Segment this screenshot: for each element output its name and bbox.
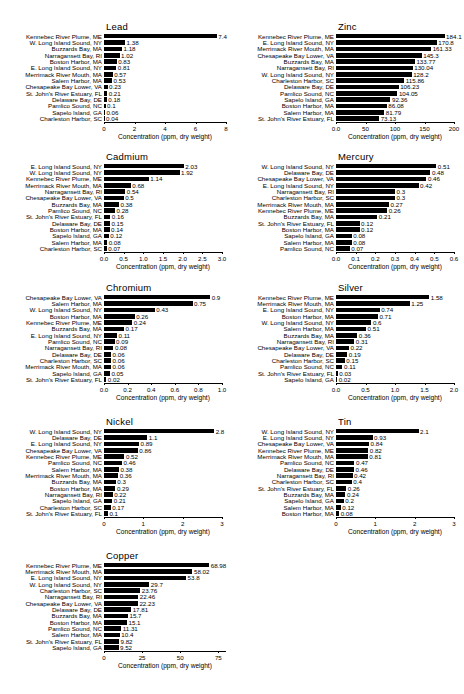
bar bbox=[104, 66, 116, 71]
x-axis-tick bbox=[375, 252, 376, 255]
bar bbox=[104, 295, 210, 300]
x-axis-minor-tick bbox=[395, 517, 396, 519]
x-axis-tick bbox=[128, 383, 129, 386]
x-axis-tick bbox=[183, 517, 184, 520]
bar bbox=[336, 177, 426, 182]
bar bbox=[336, 492, 345, 497]
bar-category-label: Sapelo Island, GA bbox=[52, 644, 104, 651]
bar bbox=[104, 639, 119, 644]
x-axis-tick bbox=[104, 252, 105, 255]
bar bbox=[336, 78, 404, 83]
x-axis-tick-label: 0 bbox=[102, 125, 105, 132]
x-axis-tick-label: 2 bbox=[133, 125, 136, 132]
x-axis-minor-tick bbox=[116, 383, 117, 385]
x-axis-tick bbox=[454, 122, 455, 125]
x-axis-tick-label: 1 bbox=[374, 520, 377, 527]
x-axis-tick-label: 0.4 bbox=[147, 386, 156, 393]
x-axis-tick-label: 0 bbox=[102, 654, 105, 661]
bar bbox=[104, 633, 120, 638]
bar bbox=[336, 352, 347, 357]
x-axis-title: Concentration (ppm, dry weight) bbox=[336, 394, 454, 402]
bar bbox=[104, 473, 118, 478]
x-axis-minor-tick bbox=[124, 517, 125, 519]
x-axis-tick-label: 0.3 bbox=[391, 255, 400, 262]
bar bbox=[104, 314, 135, 319]
x-axis-minor-tick bbox=[410, 122, 411, 124]
bar bbox=[336, 227, 360, 232]
x-axis-minor-tick bbox=[351, 383, 352, 385]
x-axis-tick-label: 0.6 bbox=[170, 386, 179, 393]
x-axis-minor-tick bbox=[439, 122, 440, 124]
bar bbox=[104, 208, 115, 213]
x-axis-tick-label: 0.2 bbox=[371, 255, 380, 262]
x-axis-tick-label: 0.0 bbox=[100, 386, 109, 393]
bar bbox=[336, 429, 419, 434]
bar bbox=[104, 499, 112, 504]
x-axis-tick bbox=[375, 517, 376, 520]
x-axis-minor-tick bbox=[380, 383, 381, 385]
x-axis-tick bbox=[163, 252, 164, 255]
chart-panel-chromium: ChromiumChesapeake Bay Lower, VA0.9Salem… bbox=[4, 283, 232, 413]
bar bbox=[104, 339, 115, 344]
x-axis-tick-label: 6 bbox=[194, 125, 197, 132]
x-axis-tick-label: 100 bbox=[390, 125, 400, 132]
x-axis-tick bbox=[124, 252, 125, 255]
bar-category-label: Pamlico Sound, NC bbox=[280, 245, 336, 252]
chart-panel-mercury: MercuryW. Long Island Sound, NY0.51Delaw… bbox=[236, 152, 464, 280]
bar bbox=[104, 601, 138, 606]
bar bbox=[336, 66, 413, 71]
bar bbox=[104, 448, 138, 453]
x-axis-tick bbox=[366, 122, 367, 125]
bar-row: Pamlico Sound, NC0.07 bbox=[336, 245, 454, 251]
bar bbox=[336, 314, 378, 319]
x-axis-minor-tick bbox=[210, 383, 211, 385]
bar-category-label: Charleston Harbor, SC bbox=[40, 115, 104, 122]
bar-row: Boston Harbor, MA0.08 bbox=[336, 510, 454, 516]
bar bbox=[104, 582, 149, 587]
x-axis-tick-label: 0.1 bbox=[351, 255, 360, 262]
bar-row: Sapelo Island, GA0.02 bbox=[336, 376, 454, 382]
x-axis-minor-tick bbox=[380, 122, 381, 124]
bar bbox=[104, 486, 115, 491]
bar bbox=[104, 40, 125, 45]
bar bbox=[336, 435, 373, 440]
x-axis-minor-tick bbox=[405, 252, 406, 254]
bar bbox=[336, 327, 366, 332]
x-axis-title: Concentration (ppm, dry weight) bbox=[336, 263, 454, 271]
bar bbox=[336, 215, 377, 220]
bar bbox=[336, 97, 390, 102]
chart-title-zinc: Zinc bbox=[338, 22, 357, 32]
bar bbox=[104, 588, 140, 593]
x-axis-minor-tick bbox=[173, 252, 174, 254]
chart-title-copper: Copper bbox=[106, 551, 138, 561]
x-axis-tick-label: 50 bbox=[177, 654, 184, 661]
x-axis-minor-tick bbox=[439, 383, 440, 385]
x-axis-minor-tick bbox=[123, 651, 124, 653]
x-axis-tick bbox=[226, 122, 227, 125]
bar-category-label: Boston Harbor, MA bbox=[282, 510, 336, 517]
bar bbox=[104, 196, 124, 201]
x-axis-tick-label: 200 bbox=[449, 125, 459, 132]
chart-title-mercury: Mercury bbox=[338, 152, 374, 162]
x-axis-tick bbox=[198, 383, 199, 386]
bar-row: Charleston Harbor, SC0.07 bbox=[104, 245, 222, 251]
x-axis-tick-label: 3 bbox=[220, 520, 223, 527]
x-axis-tick bbox=[395, 383, 396, 386]
bar bbox=[336, 467, 354, 472]
bar bbox=[104, 177, 149, 182]
x-axis-minor-tick bbox=[410, 383, 411, 385]
bar bbox=[336, 234, 352, 239]
bar-category-label: Charleston Harbor, SC bbox=[40, 245, 104, 252]
bar bbox=[104, 576, 186, 581]
bar bbox=[336, 308, 380, 313]
x-axis-minor-tick bbox=[187, 383, 188, 385]
x-axis-tick bbox=[222, 517, 223, 520]
x-axis-tick bbox=[135, 122, 136, 125]
plot-area-nickel: W. Long Island Sound, NY2.8Delaware Bay,… bbox=[104, 428, 222, 517]
bar bbox=[336, 208, 387, 213]
bar bbox=[104, 47, 122, 52]
x-axis-tick bbox=[165, 122, 166, 125]
x-axis-tick-label: 3 bbox=[452, 520, 455, 527]
x-axis-tick bbox=[395, 122, 396, 125]
x-axis-tick bbox=[196, 122, 197, 125]
